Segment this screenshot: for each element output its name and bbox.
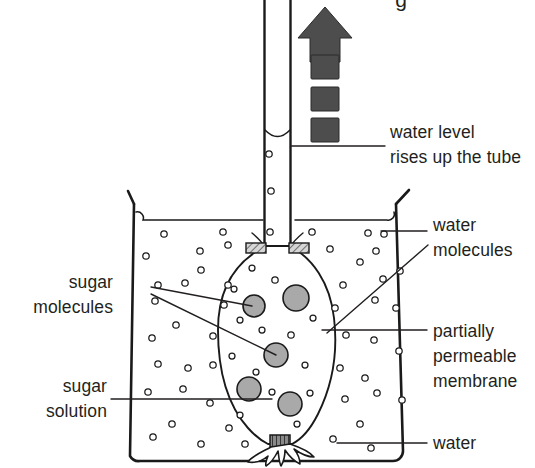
water-molecule	[340, 282, 346, 288]
water-molecule	[185, 365, 191, 371]
label-membrane-line2: permeable	[433, 346, 517, 366]
label-water-level-line1: water level	[389, 122, 475, 142]
water-molecule	[302, 362, 308, 368]
water-molecule	[226, 425, 232, 431]
water-molecule	[225, 282, 231, 288]
label-water-molecules-line2: molecules	[433, 240, 513, 260]
label-water-molecules-line1: water	[432, 215, 476, 235]
osmosis-diagram-canvas: g	[0, 0, 535, 468]
water-surface-left	[136, 212, 263, 220]
water-molecule	[330, 436, 336, 442]
water-molecule	[396, 348, 402, 354]
sugar-molecule	[283, 285, 309, 311]
membrane-clamp-band-left	[246, 243, 266, 253]
leader-water-molecules-inner	[327, 245, 428, 333]
label-water-bottom: water	[432, 433, 476, 453]
water-molecule	[173, 322, 179, 328]
water-molecule	[368, 445, 374, 451]
beaker-left-lip	[128, 191, 134, 204]
water-molecule	[332, 305, 338, 311]
label-sugar-molecules-line1: sugar	[69, 272, 113, 292]
water-molecule	[374, 390, 380, 396]
arrow-dash-3	[311, 118, 339, 142]
water-molecule	[152, 298, 158, 304]
water-molecule	[310, 315, 316, 321]
label-water-level-line2: rises up the tube	[390, 147, 521, 167]
water-molecule	[307, 390, 313, 396]
tube-meniscus	[265, 130, 290, 137]
water-molecule	[380, 276, 386, 282]
water-molecule	[225, 242, 231, 248]
water-molecule	[365, 230, 371, 236]
arrow-dash-1	[311, 55, 339, 79]
water-molecule	[294, 421, 300, 427]
water-molecule	[145, 389, 151, 395]
membrane-clamp-band-right	[289, 243, 309, 253]
cropped-title-text: g	[395, 0, 407, 11]
water-molecule	[381, 231, 387, 237]
water-molecule	[150, 434, 156, 440]
water-molecule	[342, 396, 348, 402]
water-molecule	[198, 441, 204, 447]
upward-flow-arrow	[298, 7, 352, 142]
water-molecule	[149, 335, 155, 341]
water-molecule	[180, 386, 186, 392]
sugar-molecule	[237, 377, 261, 401]
water-molecule	[231, 286, 237, 292]
water-molecule	[362, 375, 368, 381]
water-molecule	[309, 229, 315, 235]
water-molecule	[182, 280, 188, 286]
water-molecule	[372, 297, 378, 303]
water-molecule	[169, 421, 175, 427]
sugar-molecule	[278, 392, 302, 416]
water-molecule	[371, 337, 377, 343]
water-molecule	[357, 259, 363, 265]
water-molecule	[210, 362, 216, 368]
water-molecule	[259, 327, 265, 333]
label-sugar-solution-line2: solution	[46, 401, 107, 421]
water-molecule	[242, 441, 248, 447]
water-molecule	[357, 421, 363, 427]
membrane-frilled-end	[248, 444, 314, 466]
water-molecule	[249, 265, 255, 271]
water-molecule	[155, 361, 161, 367]
water-molecule	[221, 302, 227, 308]
water-molecule	[269, 389, 275, 395]
water-molecule	[197, 248, 203, 254]
water-molecule	[143, 253, 149, 259]
water-molecule	[268, 188, 274, 194]
label-membrane-line3: membrane	[433, 371, 517, 391]
label-sugar-solution-line1: sugar	[63, 376, 107, 396]
beaker-spout	[396, 190, 409, 204]
water-molecule	[267, 229, 273, 235]
capillary-tube	[265, 0, 291, 267]
arrow-dash-2	[311, 87, 339, 111]
label-membrane-line1: partially	[433, 321, 494, 341]
water-molecule	[272, 277, 278, 283]
water-molecule	[207, 400, 213, 406]
water-molecule	[229, 353, 235, 359]
water-molecule	[210, 333, 216, 339]
arrow-head	[298, 7, 352, 62]
water-molecule	[343, 332, 349, 338]
water-molecule	[198, 267, 204, 273]
water-molecule	[237, 317, 243, 323]
water-surface-right	[295, 212, 394, 220]
water-molecule	[393, 305, 399, 311]
water-molecule	[399, 397, 405, 403]
water-molecule	[327, 246, 333, 252]
water-molecule	[337, 365, 343, 371]
water-molecule	[266, 151, 272, 157]
water-molecule	[237, 412, 243, 418]
sugar-molecule	[243, 295, 265, 317]
water-molecule	[161, 231, 167, 237]
water-molecule	[220, 229, 226, 235]
osmosis-diagram-svg: g	[0, 0, 535, 468]
water-molecule	[288, 332, 294, 338]
label-sugar-molecules-line2: molecules	[33, 297, 113, 317]
water-molecule	[373, 248, 379, 254]
water-molecule	[253, 369, 259, 375]
